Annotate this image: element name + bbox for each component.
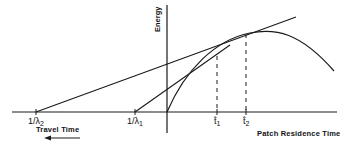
tick-sub: 2 xyxy=(246,120,250,127)
tick-sub: 1 xyxy=(139,120,143,127)
tick-sub: 1 xyxy=(217,120,221,127)
marginal-value-diagram: Energy 1/λ2 1/λ1 t̂1 t̂2 Travel Time Pat… xyxy=(0,0,357,141)
tangent-line-lambda2 xyxy=(36,17,296,112)
tick-label-t2: t̂2 xyxy=(243,116,249,127)
tick-num: 1/ xyxy=(127,116,135,126)
diagram-graphics xyxy=(0,0,357,141)
tick-label-t1: t̂1 xyxy=(214,116,220,127)
left-arrow-icon xyxy=(44,136,51,141)
tangent-line-lambda1 xyxy=(135,45,230,112)
y-axis-label: Energy xyxy=(153,7,162,32)
travel-time-label: Travel Time xyxy=(36,125,79,134)
tick-label-lambda1: 1/λ1 xyxy=(127,116,143,127)
tick-num: 1/ xyxy=(28,116,36,126)
x-axis-label: Patch Residence Time xyxy=(257,129,340,138)
